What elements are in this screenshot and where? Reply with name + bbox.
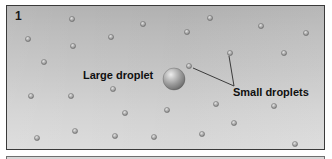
- illustration-panel: 1 Large dropletSmall droplet: [6, 5, 325, 150]
- annotation-label-1: Large droplet: [83, 69, 154, 81]
- figure-root: 1 Large dropletSmall droplet: [0, 0, 332, 159]
- small-droplet: [25, 36, 30, 41]
- droplet-scene: Large dropletSmall droplets: [7, 6, 325, 150]
- small-droplet: [258, 23, 263, 28]
- small-droplet: [231, 120, 236, 125]
- small-droplet: [72, 128, 77, 133]
- small-droplet: [184, 29, 189, 34]
- small-droplet: [140, 21, 145, 26]
- small-droplet: [213, 101, 218, 106]
- small-droplet: [69, 16, 74, 21]
- small-droplet: [227, 50, 232, 55]
- small-droplet: [70, 43, 75, 48]
- small-droplet: [122, 110, 127, 115]
- small-droplet: [281, 50, 286, 55]
- small-droplet: [112, 133, 117, 138]
- small-droplet: [41, 59, 46, 64]
- next-panel-top-edge: [6, 156, 325, 159]
- annotation-labels-group: Large dropletSmall droplets: [83, 69, 309, 98]
- small-droplet: [186, 63, 191, 68]
- small-droplet: [207, 15, 212, 20]
- leader-lines-group: [193, 56, 234, 86]
- small-droplet: [28, 93, 33, 98]
- leader-to-left-droplet: [193, 68, 234, 86]
- small-droplet: [108, 34, 113, 39]
- small-droplet: [271, 103, 276, 108]
- annotation-label-2: Small droplets: [233, 86, 309, 98]
- small-droplet: [292, 141, 297, 146]
- small-droplet: [68, 93, 73, 98]
- small-droplet: [199, 131, 204, 136]
- large-droplet-group: [163, 68, 185, 90]
- small-droplet: [34, 135, 39, 140]
- small-droplet: [164, 107, 169, 112]
- small-droplet: [110, 86, 115, 91]
- small-droplet: [151, 134, 156, 139]
- large-droplet: [163, 68, 185, 90]
- leader-to-upper-droplet: [229, 56, 234, 86]
- small-droplet: [303, 30, 308, 35]
